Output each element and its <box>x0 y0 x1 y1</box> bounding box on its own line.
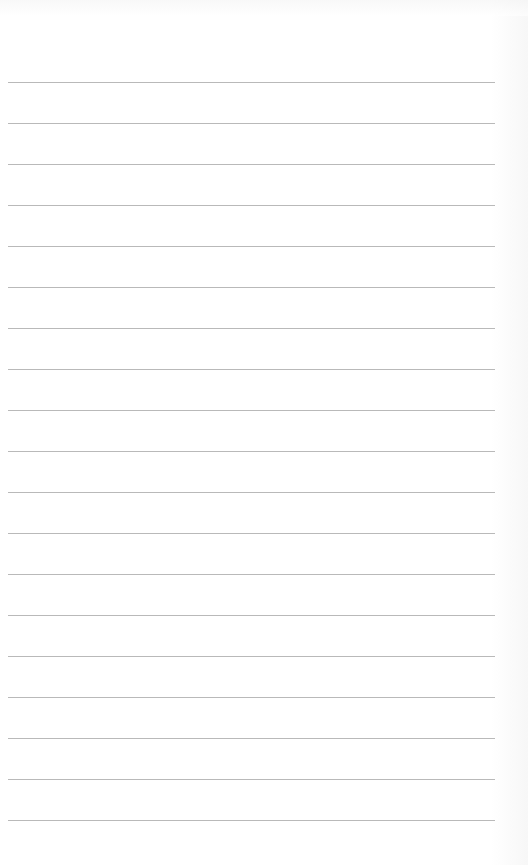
ruled-line <box>8 410 495 411</box>
ruled-line <box>8 205 495 206</box>
ruled-line <box>8 615 495 616</box>
ruled-line <box>8 451 495 452</box>
ruled-line <box>8 82 495 83</box>
ruled-line <box>8 656 495 657</box>
ruled-line <box>8 369 495 370</box>
faint-bleed-through-header <box>0 0 528 16</box>
ruled-line <box>8 533 495 534</box>
ruled-line <box>8 779 495 780</box>
ruled-line <box>8 697 495 698</box>
ruled-line <box>8 164 495 165</box>
ruled-line <box>8 287 495 288</box>
ruled-line <box>8 492 495 493</box>
ruled-line <box>8 328 495 329</box>
ruled-line <box>8 738 495 739</box>
ruled-line <box>8 123 495 124</box>
ruled-line <box>8 246 495 247</box>
ruled-line <box>8 574 495 575</box>
ruled-line <box>8 820 495 821</box>
lined-paper-page <box>0 0 528 865</box>
